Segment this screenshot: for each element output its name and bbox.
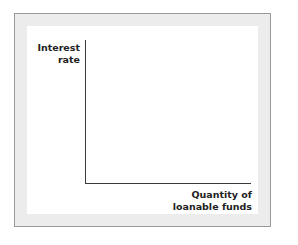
y-axis-label-line2: rate (37, 54, 80, 66)
x-axis-label-line1: Quantity of (173, 189, 252, 201)
y-axis (85, 40, 86, 183)
y-axis-label: Interest rate (37, 42, 80, 66)
y-axis-label-line1: Interest (37, 42, 80, 54)
x-axis-label: Quantity of loanable funds (173, 189, 252, 213)
x-axis-label-line2: loanable funds (173, 201, 252, 213)
x-axis (85, 183, 251, 184)
